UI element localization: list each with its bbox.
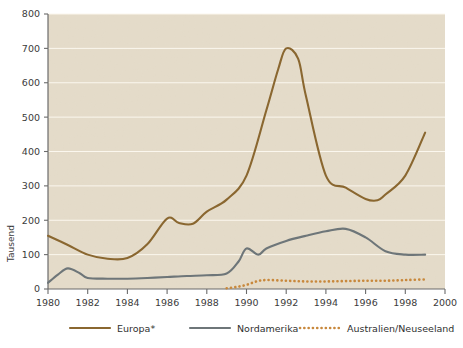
x-tick-label: 1980 [36, 297, 60, 308]
chart-container: 0100200300400500600700800 19801982198419… [0, 0, 463, 348]
y-axis-ticks: 0100200300400500600700800 [22, 8, 48, 294]
x-tick-label: 2000 [433, 297, 457, 308]
x-tick-label: 1988 [195, 297, 219, 308]
y-tick-label: 400 [22, 146, 40, 157]
x-tick-label: 1996 [354, 297, 378, 308]
x-tick-label: 1994 [314, 297, 338, 308]
y-axis-title: Tausend [6, 225, 16, 263]
y-tick-label: 200 [22, 215, 40, 226]
y-tick-label: 800 [22, 8, 40, 19]
x-tick-label: 1986 [155, 297, 179, 308]
legend-label-0: Europa* [117, 323, 155, 334]
x-tick-label: 1992 [274, 297, 298, 308]
y-tick-label: 300 [22, 180, 40, 191]
y-tick-label: 700 [22, 43, 40, 54]
y-tick-label: 600 [22, 77, 40, 88]
x-tick-label: 1998 [393, 297, 417, 308]
x-tick-label: 1990 [234, 297, 258, 308]
x-axis-ticks: 1980198219841986198819901992199419961998… [36, 289, 457, 308]
chart-legend: Europa*NordamerikaAustralien/Neuseeland [70, 323, 454, 334]
legend-label-1: Nordamerika [237, 323, 298, 334]
y-tick-label: 500 [22, 112, 40, 123]
x-tick-label: 1984 [115, 297, 139, 308]
y-tick-label: 100 [22, 249, 40, 260]
line-chart: 0100200300400500600700800 19801982198419… [0, 0, 463, 348]
x-tick-label: 1982 [76, 297, 100, 308]
y-tick-label: 0 [34, 283, 40, 294]
legend-label-2: Australien/Neuseeland [347, 323, 454, 334]
